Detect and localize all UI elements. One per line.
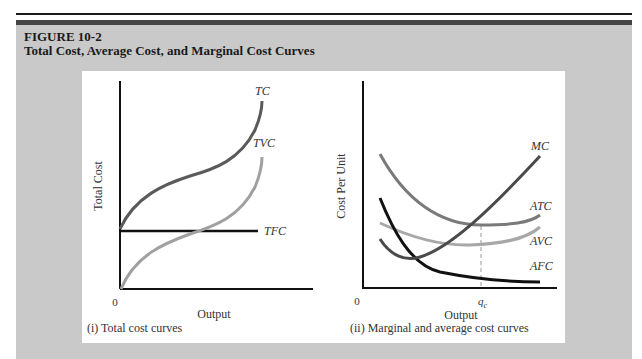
right-caption: (ii) Marginal and average cost curves <box>350 321 529 335</box>
left-y-label: Total Cost <box>91 161 105 211</box>
left-caption: (i) Total cost curves <box>87 321 183 335</box>
mc-label: MC <box>530 139 550 153</box>
qc-label: qc <box>478 295 488 310</box>
tvc-label: TVC <box>253 136 276 150</box>
afc-label: AFC <box>529 259 554 273</box>
tc-label: TC <box>255 84 271 98</box>
tc-curve <box>120 101 262 229</box>
left-origin-label: 0 <box>112 296 118 308</box>
right-x-label: Output <box>444 308 478 322</box>
left-x-label: Output <box>197 307 231 321</box>
chart-total-cost: Total Cost 0 Output (i) Total cost curve… <box>87 81 313 335</box>
atc-label: ATC <box>529 199 553 213</box>
charts-svg: Total Cost 0 Output (i) Total cost curve… <box>0 0 642 359</box>
right-y-label: Cost Per Unit <box>334 153 348 219</box>
tfc-label: TFC <box>264 224 287 238</box>
chart-unit-cost: Cost Per Unit 0 qc Output (ii) Marginal … <box>334 81 557 335</box>
atc-curve <box>380 154 540 225</box>
right-origin-label: 0 <box>354 295 360 307</box>
avc-label: AVC <box>529 234 553 248</box>
